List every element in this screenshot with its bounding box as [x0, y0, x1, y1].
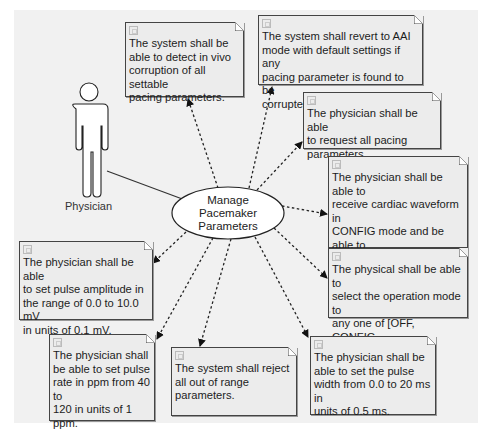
- requirement-text: The physician shall be able to set pulse…: [23, 256, 149, 338]
- requirement-icon: [175, 351, 184, 360]
- folded-corner-icon: [235, 22, 244, 31]
- requirement-icon: [53, 338, 62, 347]
- requirement-note-pulse-rate[interactable]: The physician shall be able to set pulse…: [49, 334, 155, 421]
- use-case-label: Manage Pacemaker Parameters: [178, 194, 278, 233]
- dependency-arrow-reject-out-of-range: [200, 239, 231, 346]
- requirement-note-operation-mode[interactable]: The physical shall be able to select the…: [328, 248, 468, 318]
- dependency-arrow-detect-corruption: [188, 99, 218, 188]
- requirement-text: The physician shall be able to request a…: [307, 107, 437, 161]
- folded-corner-icon: [432, 92, 441, 101]
- requirement-note-pulse-amplitude[interactable]: The physician shall be able to set pulse…: [19, 241, 153, 320]
- requirement-note-reject-out-of-range[interactable]: The system shall reject all out of range…: [171, 347, 297, 416]
- requirement-text: The physician shall be able to set the p…: [314, 351, 432, 419]
- requirement-icon: [129, 26, 138, 35]
- requirement-note-pulse-width[interactable]: The physician shall be able to set the p…: [310, 336, 436, 415]
- dependency-arrow-cardiac-waveform: [282, 206, 327, 214]
- folded-corner-icon: [288, 347, 297, 356]
- requirement-text: The system shall reject all out of range…: [175, 362, 293, 403]
- dependency-arrow-request-parameters: [257, 142, 302, 190]
- requirement-icon: [23, 245, 32, 254]
- requirement-note-detect-corruption[interactable]: The system shall be able to detect in vi…: [125, 22, 244, 97]
- dependency-arrow-operation-mode: [274, 228, 327, 278]
- requirement-icon: [307, 96, 316, 105]
- folded-corner-icon: [459, 156, 468, 165]
- requirement-note-request-parameters[interactable]: The physician shall be able to request a…: [303, 92, 441, 149]
- dependency-arrow-pulse-rate: [157, 238, 213, 339]
- requirement-icon: [314, 340, 323, 349]
- folded-corner-icon: [144, 241, 153, 250]
- requirement-icon: [332, 252, 341, 261]
- requirement-icon: [332, 160, 341, 169]
- requirement-note-revert-aai[interactable]: The system shall revert to AAI mode with…: [258, 15, 423, 85]
- requirement-text: The system shall be able to detect in vi…: [129, 37, 240, 105]
- folded-corner-icon: [459, 248, 468, 257]
- physician-actor-icon[interactable]: [73, 83, 108, 197]
- dependency-arrow-pulse-amplitude: [153, 232, 186, 263]
- requirement-text: The physician shall be able to set pulse…: [53, 349, 151, 431]
- actor-label: Physician: [65, 200, 112, 212]
- requirement-icon: [262, 19, 271, 28]
- association-line: [107, 171, 185, 200]
- requirement-note-cardiac-waveform[interactable]: The physician shall be able to receive c…: [328, 156, 468, 248]
- folded-corner-icon: [427, 336, 436, 345]
- folded-corner-icon: [414, 15, 423, 24]
